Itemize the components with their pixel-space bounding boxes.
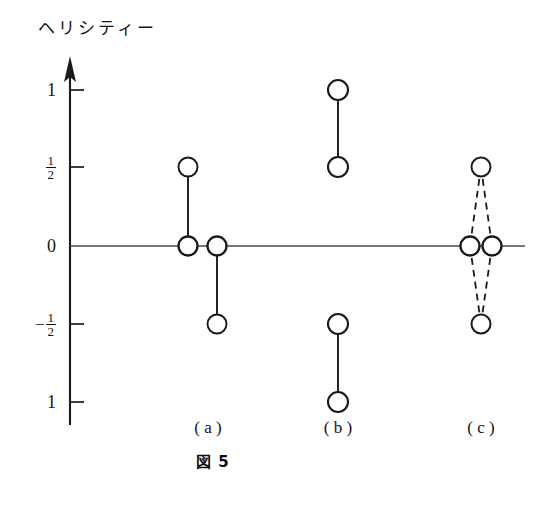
state-marker (179, 158, 198, 177)
y-axis (64, 56, 76, 425)
state-marker (472, 158, 491, 177)
ytick-label-zero: 0 (14, 236, 56, 257)
group-label-b: ( b ) (293, 418, 383, 438)
ytick-label-1: 1 (14, 80, 56, 101)
group-label-a: ( a ) (163, 418, 253, 438)
state-marker (208, 237, 227, 256)
state-marker (461, 237, 480, 256)
ytick-label-neg-half: − 1 2 (6, 311, 56, 339)
fraction-one-half: 1 2 (46, 311, 57, 339)
state-marker (328, 157, 348, 177)
figure-container: ヘリシティー (0, 0, 543, 509)
state-marker (472, 315, 491, 334)
state-marker (483, 237, 502, 256)
group-label-c: ( c ) (436, 418, 526, 438)
state-marker (328, 314, 348, 334)
fraction-one-half: 1 2 (46, 154, 57, 182)
connector-c-top-left (470, 167, 481, 246)
state-marker (208, 315, 227, 334)
connector-c-right-bottom (481, 246, 492, 324)
figure-caption: 図 5 (196, 450, 230, 471)
state-marker (328, 80, 348, 100)
state-marker (179, 237, 198, 256)
ytick-label-neg-1: 1 (14, 392, 56, 413)
minus-sign: − (35, 316, 46, 333)
ytick-label-half: 1 2 (14, 154, 56, 182)
connector-c-top-right (481, 167, 492, 246)
state-marker (328, 392, 348, 412)
connector-c-left-bottom (470, 246, 481, 324)
